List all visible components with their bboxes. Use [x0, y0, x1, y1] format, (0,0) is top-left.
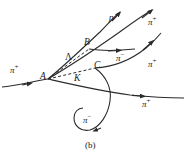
track-lower-pi-plus — [48, 79, 184, 98]
label-kaon: K — [74, 74, 80, 84]
figure-caption: (b) — [85, 141, 96, 150]
label-vertex-c: C — [94, 61, 100, 71]
label-right-pi-plus: π+ — [148, 60, 156, 69]
label-spiral-pi-minus: π− — [83, 116, 91, 125]
label-lambda: Λ — [65, 53, 72, 63]
label-incoming-pi-plus: π+ — [10, 66, 18, 75]
particle-track-diagram — [0, 0, 187, 160]
label-vertex-a: A — [40, 72, 46, 82]
bubble-chamber-figure: π+ p π+ π− π+ π+ π− A B C K Λ (b) — [0, 0, 187, 160]
arrowhead-spiral-pi-minus — [95, 128, 101, 131]
arrowhead-right-pi-plus — [143, 42, 152, 50]
label-horizontal-pi-minus: π− — [116, 54, 124, 63]
label-upper-pi-plus: π+ — [148, 18, 156, 27]
label-lower-pi-plus: π+ — [142, 100, 150, 109]
arrowhead-horizontal-pi-minus — [108, 51, 119, 52]
label-proton: p — [109, 13, 114, 22]
label-vertex-b: B — [84, 38, 90, 48]
